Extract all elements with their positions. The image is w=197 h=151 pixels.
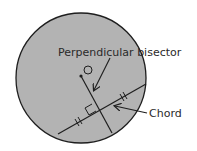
bisector-label: Perpendicular bisector (58, 46, 182, 59)
chord-label: Chord (149, 107, 182, 120)
chord-bisector-diagram: Perpendicular bisector Chord (0, 0, 197, 151)
circle (16, 13, 146, 143)
